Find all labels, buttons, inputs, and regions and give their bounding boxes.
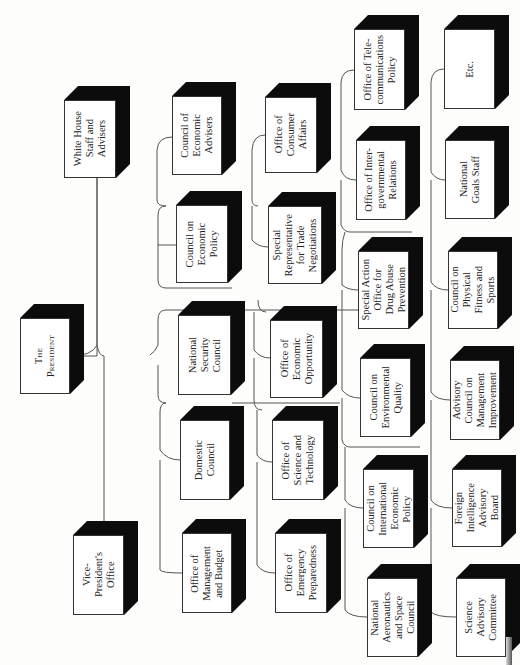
org-box-special-action-drug-abuse: Special Action Office for Drug Abuse Pre… (358, 237, 423, 329)
box-label: Council on Environmental Quality (368, 366, 404, 428)
box-label: Foreign Intelligence Advisory Board (453, 483, 501, 533)
org-box-office-science-technology: Office of Science and Technology (272, 406, 338, 500)
box-label: White House Staff and Advisers (72, 111, 108, 166)
box-label: Special Action Office for Drug Abuse Pre… (360, 259, 408, 321)
box-label: Advisory Council on Management Improveme… (451, 372, 499, 429)
box-label: Council on Physical Fitness and Sports (449, 266, 497, 314)
box-label: Council of Economic Advisers (179, 113, 215, 158)
org-box-office-economic-opportunity: Office of Economic Opportunity (270, 306, 337, 398)
org-box-council-economic-advisers: Council of Economic Advisers (172, 82, 236, 175)
box-face: Council on Physical Fitness and Sports (448, 251, 498, 329)
box-label: Office of Science and Technology (280, 435, 316, 485)
box-face: Domestic Council (180, 420, 230, 500)
org-box-white-house-staff: White House Staff and Advisers (64, 86, 130, 178)
box-face: Office of Tele- communications Policy (354, 29, 405, 110)
org-box-council-physical-fitness: Council on Physical Fitness and Sports (448, 237, 512, 329)
org-box-council-international-economic: Council on International Economic Policy (363, 455, 428, 548)
box-face: Foreign Intelligence Advisory Board (452, 469, 502, 547)
org-box-domestic-council: Domestic Council (180, 406, 244, 500)
box-face: Council on Economic Policy (176, 205, 228, 283)
box-label: Vice- President's Office (81, 552, 117, 597)
box-face: Office of Economic Opportunity (270, 320, 323, 398)
org-box-office-intergovernmental: Office of Inter- governmental Relations (356, 126, 420, 220)
box-face: Vice- President's Office (73, 535, 124, 615)
box-label: National Aeronautics and Space Council (369, 592, 417, 643)
org-box-foreign-intelligence-board: Foreign Intelligence Advisory Board (452, 455, 516, 547)
box-face: White House Staff and Advisers (64, 100, 116, 178)
box-label: The President (33, 335, 57, 377)
box-label: Office of Consumer Affairs (273, 113, 309, 156)
box-label: Office of Inter- governmental Relations (363, 148, 399, 212)
box-face: Office of Science and Technology (272, 420, 324, 500)
box-face: The President (20, 318, 70, 394)
box-face: National Aeronautics and Space Council (367, 578, 418, 657)
box-face: National Goals Staff (445, 140, 495, 219)
org-box-council-environmental-quality: Council on Environmental Quality (360, 344, 425, 437)
box-face: Council of Economic Advisers (172, 96, 222, 175)
box-label: Science Advisory Committee (463, 594, 499, 641)
box-face: Special Action Office for Drug Abuse Pre… (358, 251, 409, 329)
box-label: Domestic Council (193, 440, 217, 480)
box-label: National Security Council (187, 337, 223, 373)
org-box-office-consumer-affairs: Office of Consumer Affairs (265, 83, 331, 173)
box-face: Office of Consumer Affairs (265, 97, 317, 173)
page-edge-shadow (506, 637, 512, 665)
box-label: National Goals Staff (458, 156, 482, 203)
box-face: National Security Council (178, 315, 231, 395)
box-label: Office of Emergency Preparedness (283, 545, 319, 600)
org-box-office-telecommunications: Office of Tele- communications Policy (354, 15, 419, 110)
org-box-president: The President (20, 304, 84, 394)
box-face: Council on International Economic Policy (363, 469, 414, 548)
box-face: Office of Inter- governmental Relations (356, 140, 406, 220)
org-box-office-management-budget: Office of Management and Budget (182, 519, 246, 613)
org-box-vice-president: Vice- President's Office (73, 521, 138, 615)
org-box-etc: Etc. (444, 15, 509, 109)
org-box-special-rep-trade: Special Representative for Trade Negotia… (268, 192, 336, 284)
box-face: Special Representative for Trade Negotia… (268, 206, 322, 284)
box-face: Office of Management and Budget (182, 533, 232, 613)
box-label: Special Representative for Trade Negotia… (271, 214, 319, 276)
box-face: Science Advisory Committee (456, 578, 506, 657)
org-box-nasa-council: National Aeronautics and Space Council (367, 564, 432, 657)
org-box-council-economic-policy: Council on Economic Policy (176, 191, 242, 283)
org-box-advisory-council-management: Advisory Council on Management Improveme… (450, 346, 514, 440)
box-label: Etc. (464, 61, 476, 78)
box-face: Office of Emergency Preparedness (275, 533, 327, 613)
org-box-national-security-council: National Security Council (178, 301, 245, 395)
box-label: Council on Economic Policy (184, 221, 220, 267)
org-box-national-goals-staff: National Goals Staff (445, 126, 509, 219)
box-label: Office of Tele- communications Policy (362, 35, 398, 104)
box-label: Office of Economic Opportunity (279, 333, 315, 384)
box-face: Advisory Council on Management Improveme… (450, 360, 500, 440)
box-label: Office of Management and Budget (189, 546, 225, 601)
box-face: Council on Environmental Quality (360, 358, 411, 437)
org-box-office-emergency-preparedness: Office of Emergency Preparedness (275, 519, 341, 613)
box-label: Council on International Economic Policy (365, 482, 413, 536)
box-face: Etc. (444, 29, 495, 109)
